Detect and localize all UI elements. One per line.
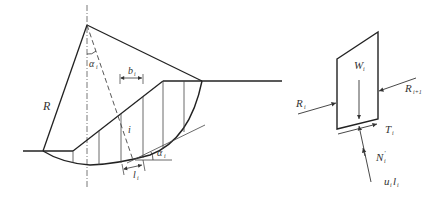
label-alpha-top: α: [89, 58, 95, 69]
label-T: T: [385, 123, 392, 135]
label-N-prime: ′: [384, 149, 386, 157]
label-u-sub: i: [390, 182, 392, 188]
label-R-right: R: [404, 82, 412, 94]
label-R-left-sub: i: [304, 104, 306, 110]
slice-outline: [337, 32, 378, 129]
slope-stability-diagram: R α i b i i l i α i W i R i R i+1 T i N …: [0, 0, 438, 198]
slope-section: R α i b i i l i α i: [23, 5, 282, 188]
slice-free-body: W i R i R i+1 T i N ′ i u i l i: [295, 32, 422, 188]
label-l: l: [133, 169, 136, 180]
label-T-sub: i: [392, 130, 394, 136]
slice-lines: [73, 81, 184, 165]
label-R: R: [42, 99, 51, 113]
label-R-left: R: [295, 97, 303, 109]
label-alpha-bottom: α: [157, 147, 163, 158]
label-b: b: [128, 65, 133, 76]
shear-force-arrow: [338, 124, 377, 134]
slip-circle-arc: [43, 81, 202, 165]
crest-radius-line: [87, 25, 202, 81]
label-b-sub: i: [134, 71, 136, 77]
radius-line: [43, 25, 87, 151]
normal-force-arrow: [359, 126, 371, 182]
label-alpha-top-sub: i: [96, 64, 98, 70]
label-ul-l-sub: i: [397, 182, 399, 188]
radial-dashed-line: [87, 25, 133, 160]
label-ul-l: l: [393, 175, 396, 187]
tangent-line: [127, 125, 205, 163]
label-N-sub: i: [384, 158, 386, 164]
label-slice-i: i: [128, 124, 131, 135]
label-R-right-sub: i+1: [413, 89, 422, 95]
label-W-sub: i: [363, 66, 365, 72]
label-l-sub: i: [137, 175, 139, 181]
label-alpha-bottom-sub: i: [164, 153, 166, 159]
alpha-top-arc: [87, 51, 96, 54]
label-N: N: [375, 151, 384, 163]
